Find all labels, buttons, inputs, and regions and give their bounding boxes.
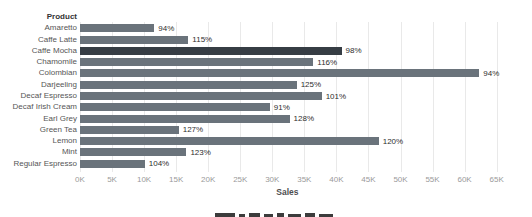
category-label[interactable]: Mint: [0, 147, 77, 157]
category-axis-header: Product: [0, 12, 77, 22]
bar-green-tea[interactable]: [80, 126, 179, 134]
x-tick-label: 25K: [227, 175, 253, 184]
category-label[interactable]: Decaf Espresso: [0, 91, 77, 101]
caption-fragment-segment: [239, 214, 245, 217]
x-tick-label: 50K: [388, 175, 414, 184]
bar-value-label: 128%: [294, 114, 314, 123]
bar-value-label: 115%: [192, 35, 212, 44]
bar-value-label: 123%: [190, 148, 210, 157]
bar-value-label: 91%: [274, 103, 290, 112]
category-label[interactable]: Darjeeling: [0, 80, 77, 90]
caption-fragment-segment: [277, 213, 284, 217]
bar-colombian[interactable]: [80, 69, 479, 77]
category-label[interactable]: Decaf Irish Cream: [0, 102, 77, 112]
bar-regular-espresso[interactable]: [80, 160, 145, 168]
category-label[interactable]: Earl Grey: [0, 114, 77, 124]
bar-decaf-espresso[interactable]: [80, 92, 322, 100]
category-label[interactable]: Lemon: [0, 136, 77, 146]
bar-chamomile[interactable]: [80, 58, 313, 66]
gridline: [368, 22, 369, 172]
category-label[interactable]: Colombian: [0, 68, 77, 78]
category-label[interactable]: Caffe Mocha: [0, 46, 77, 56]
bar-lemon[interactable]: [80, 137, 379, 145]
category-label[interactable]: Caffe Latte: [0, 35, 77, 45]
x-tick-label: 0K: [67, 175, 93, 184]
x-tick-label: 10K: [131, 175, 157, 184]
caption-fragment-segment: [288, 214, 301, 217]
gridline: [401, 22, 402, 172]
bar-value-label: 101%: [326, 92, 346, 101]
bar-caffe-mocha[interactable]: [80, 47, 342, 55]
category-label[interactable]: Regular Espresso: [0, 159, 77, 169]
bar-amaretto[interactable]: [80, 24, 154, 32]
bar-chart: Product AmarettoCaffe LatteCaffe MochaCh…: [0, 0, 532, 217]
category-label[interactable]: Chamomile: [0, 57, 77, 67]
bar-value-label: 127%: [183, 125, 203, 134]
bar-value-label: 120%: [383, 137, 403, 146]
bar-value-label: 104%: [149, 159, 169, 168]
bar-earl-grey[interactable]: [80, 115, 290, 123]
x-tick-label: 65K: [484, 175, 510, 184]
bar-value-label: 98%: [346, 46, 362, 55]
bar-decaf-irish-cream[interactable]: [80, 103, 270, 111]
bar-caffe-latte[interactable]: [80, 36, 188, 44]
bar-value-label: 125%: [301, 80, 321, 89]
category-label[interactable]: Amaretto: [0, 23, 77, 33]
bar-value-label: 116%: [317, 58, 337, 67]
x-tick-label: 5K: [99, 175, 125, 184]
bar-value-label: 94%: [483, 69, 499, 78]
x-tick-label: 20K: [195, 175, 221, 184]
gridline: [433, 22, 434, 172]
x-tick-label: 55K: [420, 175, 446, 184]
x-tick-label: 15K: [163, 175, 189, 184]
caption-fragment-segment: [264, 214, 273, 217]
caption-fragment-segment: [215, 213, 235, 217]
caption-fragment-segment: [305, 213, 315, 217]
x-tick-label: 35K: [291, 175, 317, 184]
x-tick-label: 60K: [452, 175, 478, 184]
x-tick-label: 45K: [355, 175, 381, 184]
x-tick-label: 40K: [323, 175, 349, 184]
caption-fragment-segment: [319, 214, 333, 217]
caption-fragment-segment: [249, 213, 260, 217]
x-tick-label: 30K: [259, 175, 285, 184]
bar-value-label: 94%: [158, 24, 174, 33]
bar-darjeeling[interactable]: [80, 81, 297, 89]
gridline: [465, 22, 466, 172]
gridline: [497, 22, 498, 172]
bar-mint[interactable]: [80, 148, 186, 156]
category-label[interactable]: Green Tea: [0, 125, 77, 135]
value-axis-title: Sales: [276, 187, 298, 197]
